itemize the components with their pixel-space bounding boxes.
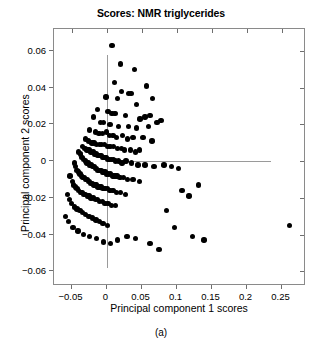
scatter-point [135, 162, 140, 167]
scatter-point [128, 91, 133, 96]
scatter-point [119, 89, 124, 94]
scatter-point [150, 96, 155, 101]
scatter-point [132, 67, 137, 72]
y-tick-mark-right [300, 88, 304, 89]
scatter-point [137, 179, 142, 184]
scatter-point [130, 177, 135, 182]
scatter-point [190, 234, 195, 239]
scatter-point [140, 135, 145, 140]
x-tick-mark-top [142, 29, 143, 33]
x-tick-mark [106, 285, 107, 289]
scatter-point [75, 228, 80, 233]
x-tick-mark-top [212, 29, 213, 33]
scatter-point [123, 192, 128, 197]
x-axis-label: Principal component 1 scores [33, 302, 322, 314]
y-tick-mark-right [300, 235, 304, 236]
scatter-point [287, 223, 292, 228]
scatter-point [101, 120, 106, 125]
scatter-point [103, 94, 108, 99]
scatter-point [91, 114, 96, 119]
scatter-point [146, 124, 151, 129]
scatter-point [115, 237, 120, 242]
scatter-point [156, 247, 161, 252]
y-tick-mark [49, 160, 53, 161]
x-tick-label: 0.2 [239, 291, 252, 302]
x-tick-label: 0.1 [169, 291, 182, 302]
scatter-points-layer [54, 29, 304, 284]
scatter-point [129, 160, 134, 165]
x-tick-mark [176, 285, 177, 289]
scatter-point [116, 124, 121, 129]
scatter-point [144, 83, 149, 88]
y-tick-mark [49, 197, 53, 198]
scatter-point [151, 164, 156, 169]
figure-caption: (a) [0, 327, 322, 338]
scatter-point [196, 182, 201, 187]
scatter-point [147, 113, 152, 118]
scatter-point [107, 122, 112, 127]
scatter-point [125, 177, 130, 182]
y-tick-mark [49, 123, 53, 124]
plot-area [53, 28, 305, 285]
figure-container: Scores: NMR triglycerides −0.0500.050.10… [0, 0, 322, 352]
y-tick-mark [49, 87, 53, 88]
y-tick-mark-right [300, 51, 304, 52]
x-tick-mark [211, 285, 212, 289]
scatter-point [134, 102, 139, 107]
scatter-point [172, 225, 177, 230]
y-tick-mark-right [300, 161, 304, 162]
scatter-point [123, 158, 128, 163]
x-tick-mark-top [107, 29, 108, 33]
x-tick-label: 0.25 [271, 291, 290, 302]
y-tick-label: 0 [41, 155, 46, 166]
scatter-point [109, 43, 114, 48]
scatter-point [134, 125, 139, 130]
scatter-point [164, 208, 169, 213]
scatter-point [201, 237, 206, 242]
scatter-point [66, 219, 71, 224]
scatter-point [186, 193, 191, 198]
chart-title: Scores: NMR triglycerides [0, 7, 322, 19]
scatter-point [179, 188, 184, 193]
x-tick-mark [71, 285, 72, 289]
scatter-point [113, 203, 118, 208]
x-tick-label: 0.05 [131, 291, 150, 302]
x-tick-label: −0.05 [58, 291, 82, 302]
y-tick-mark [49, 234, 53, 235]
scatter-point [149, 138, 154, 143]
y-tick-mark-right [300, 271, 304, 272]
scatter-point [87, 127, 92, 132]
scatter-point [124, 234, 129, 239]
y-tick-mark-right [300, 124, 304, 125]
scatter-point [87, 234, 92, 239]
scatter-point [118, 61, 123, 66]
scatter-point [81, 232, 86, 237]
scatter-point [125, 136, 130, 141]
scatter-point [112, 80, 117, 85]
scatter-point [158, 118, 163, 123]
scatter-point [133, 236, 138, 241]
y-tick-mark-right [300, 198, 304, 199]
scatter-point [123, 113, 128, 118]
scatter-point [67, 173, 72, 178]
x-tick-label: 0 [103, 291, 108, 302]
scatter-point [95, 107, 100, 112]
scatter-point [161, 162, 166, 167]
scatter-point [112, 111, 117, 116]
x-tick-mark [246, 285, 247, 289]
y-tick-mark [49, 270, 53, 271]
scatter-point [101, 239, 106, 244]
scatter-point [176, 166, 181, 171]
x-tick-mark [281, 285, 282, 289]
scatter-point [94, 236, 99, 241]
y-tick-mark [49, 50, 53, 51]
x-tick-mark-top [247, 29, 248, 33]
scatter-point [126, 124, 131, 129]
scatter-point [114, 135, 119, 140]
x-tick-mark-top [177, 29, 178, 33]
scatter-point [147, 241, 152, 246]
scatter-point [130, 135, 135, 140]
x-tick-label: 0.15 [201, 291, 220, 302]
scatter-point [115, 96, 120, 101]
scatter-point [142, 162, 147, 167]
